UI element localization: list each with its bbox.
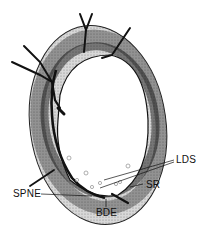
label-spne: SPNE — [13, 189, 41, 199]
label-bde: BDE — [96, 208, 117, 218]
label-lds: LDS — [176, 155, 196, 165]
label-sr: SR — [146, 180, 160, 190]
